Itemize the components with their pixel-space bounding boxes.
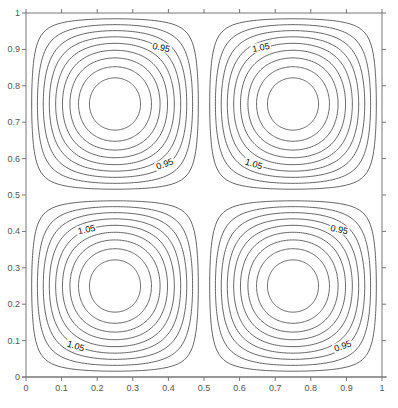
y-tick-label: 0.9 — [7, 44, 20, 54]
contour-line-top-left — [89, 78, 140, 130]
contour-line-top-right — [227, 37, 358, 171]
contour-line-top-right — [234, 43, 353, 164]
contour-line-top-left — [70, 58, 160, 150]
x-tick-label: 0.4 — [162, 383, 175, 393]
contour-line-bottom-left — [89, 260, 140, 312]
contour-line-bottom-right — [234, 225, 353, 346]
contour-line-bottom-left — [49, 219, 180, 353]
x-tick-label: 0.8 — [305, 383, 318, 393]
y-tick-label: 0.6 — [7, 154, 20, 164]
y-tick-label: 1 — [15, 8, 20, 18]
y-tick-label: 0.1 — [7, 336, 20, 346]
contour-label: 1.05 — [251, 41, 270, 54]
contour-line-bottom-left — [70, 240, 160, 332]
plot-frame — [26, 13, 382, 377]
x-tick-label: 0.9 — [340, 383, 353, 393]
x-tick-label: 0.1 — [55, 383, 68, 393]
contour-label: 0.95 — [155, 156, 175, 171]
y-tick-label: 0.4 — [7, 226, 20, 236]
y-tick-label: 0 — [15, 372, 20, 382]
y-tick-label: 0.5 — [7, 190, 20, 200]
contour-labels: 0.950.951.051.051.051.050.950.95 — [65, 41, 354, 354]
y-tick-label: 0.7 — [7, 117, 20, 127]
contour-label: 0.95 — [333, 338, 353, 353]
contour-line-bottom-left — [37, 207, 192, 366]
y-tick-label: 0.2 — [7, 299, 20, 309]
contour-line-bottom-left — [56, 225, 175, 346]
contour-line-bottom-left — [32, 201, 199, 371]
x-tick-label: 0 — [23, 383, 28, 393]
x-tick-label: 0.3 — [127, 383, 140, 393]
contour-line-bottom-right — [248, 240, 338, 332]
contour-line-top-right — [210, 19, 377, 189]
contour-plot: 0.950.951.051.051.051.050.950.95 00.10.2… — [0, 0, 398, 408]
x-tick-label: 0.2 — [91, 383, 104, 393]
x-tick-label: 0.6 — [233, 383, 246, 393]
x-tick-label: 0.5 — [198, 383, 211, 393]
contour-lines — [32, 19, 377, 371]
contour-line-top-left — [49, 37, 180, 171]
contour-label: 0.95 — [152, 41, 171, 54]
contour-line-bottom-right — [267, 260, 318, 312]
x-tick-label: 0.7 — [269, 383, 282, 393]
contour-line-bottom-right — [227, 219, 358, 353]
x-tick-label: 1 — [379, 383, 384, 393]
contour-line-top-right — [248, 58, 338, 150]
y-tick-label: 0.8 — [7, 81, 20, 91]
contour-line-top-right — [215, 25, 370, 184]
contour-line-top-right — [267, 78, 318, 130]
contour-line-top-left — [56, 43, 175, 164]
y-tick-label: 0.3 — [7, 263, 20, 273]
contour-label: 0.95 — [330, 223, 349, 236]
